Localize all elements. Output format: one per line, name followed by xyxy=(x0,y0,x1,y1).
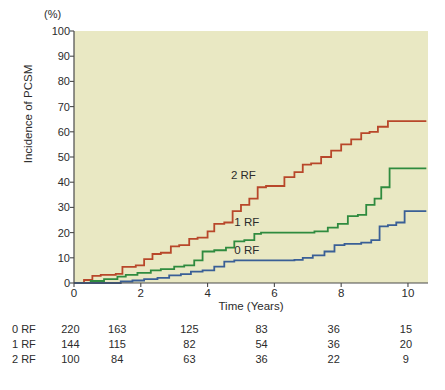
risk-cell: 36 xyxy=(298,322,370,337)
risk-cell: 9 xyxy=(370,352,442,367)
risk-table: 0 RF2201631258336151 RF144115825436202 R… xyxy=(12,322,442,367)
risk-cell: 84 xyxy=(81,352,153,367)
numbers-at-risk-table: 0 RF2201631258336151 RF144115825436202 R… xyxy=(0,322,445,367)
risk-cell: 220 xyxy=(60,322,82,337)
table-row: 0 RF220163125833615 xyxy=(12,322,442,337)
risk-cell: 63 xyxy=(153,352,225,367)
table-row: 1 RF14411582543620 xyxy=(12,337,442,352)
risk-cell: 15 xyxy=(370,322,442,337)
risk-cell: 100 xyxy=(60,352,82,367)
risk-cell: 22 xyxy=(298,352,370,367)
risk-cell: 115 xyxy=(81,337,153,352)
risk-cell: 54 xyxy=(225,337,297,352)
risk-row-label: 2 RF xyxy=(12,352,60,367)
risk-row-label: 1 RF xyxy=(12,337,60,352)
risk-cell: 20 xyxy=(370,337,442,352)
curve-label-1rf: 1 RF xyxy=(234,216,259,228)
curve-label-0rf: 0 RF xyxy=(234,244,259,256)
curve-label-2rf: 2 RF xyxy=(231,169,256,181)
table-row: 2 RF100846336229 xyxy=(12,352,442,367)
risk-row-label: 0 RF xyxy=(12,322,60,337)
risk-cell: 82 xyxy=(153,337,225,352)
risk-cell: 125 xyxy=(153,322,225,337)
risk-cell: 36 xyxy=(225,352,297,367)
risk-cell: 144 xyxy=(60,337,82,352)
risk-cell: 36 xyxy=(298,337,370,352)
figure-container: (%) Incidence of PCSM Time (Years) 01020… xyxy=(0,0,445,390)
risk-cell: 83 xyxy=(225,322,297,337)
risk-cell: 163 xyxy=(81,322,153,337)
